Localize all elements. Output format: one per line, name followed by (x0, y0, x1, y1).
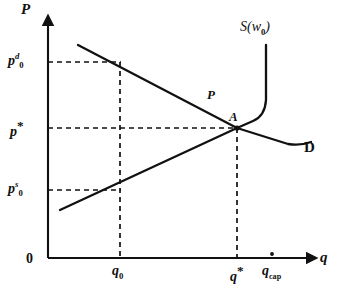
price-base-p0d: p (8, 53, 15, 68)
quantity-label-q0: q0 (112, 264, 123, 280)
price-base-pstar: p (10, 124, 17, 139)
quantity-label-qcap: qcap (262, 264, 281, 281)
price-label-pstar: p* (10, 119, 24, 139)
price-base-p0s: p (8, 181, 15, 196)
price-axis-label: P (21, 2, 30, 17)
quantity-axis-label: q (320, 250, 328, 265)
supply-demand-figure: P q 0 pd0 p* ps0 q0 q* qcap S(w0) D P A (0, 0, 340, 288)
supply-label-head: S(w (240, 19, 261, 34)
demand-curve (78, 45, 311, 145)
equilibrium-point-label: A (229, 110, 238, 123)
qty-sub-qcap: cap (269, 272, 281, 281)
demand-curve-path (78, 45, 311, 145)
price-star-pstar: * (17, 118, 24, 133)
price-sub-p0s: 0 (18, 188, 22, 198)
qty-base-qcap: q (262, 263, 269, 278)
origin-label: 0 (26, 252, 33, 266)
qty-base-qstar: q (230, 269, 237, 284)
qcap-point-marker (270, 252, 274, 256)
supply-label-tail: ) (265, 19, 270, 34)
price-label-p0d: pd0 (8, 52, 24, 70)
qty-sub-q0: 0 (119, 271, 123, 281)
region-label-p: P (207, 88, 215, 101)
price-sub-p0d: 0 (19, 60, 23, 70)
marker-group (234, 125, 274, 256)
supply-curve-label: S(w0) (240, 20, 270, 36)
axis-group (48, 24, 308, 258)
qty-base-q0: q (112, 263, 119, 278)
quantity-label-qstar: q* (230, 264, 244, 284)
diagram-canvas (0, 0, 340, 288)
qty-star-qstar: * (237, 263, 244, 278)
equilibrium-point-marker (234, 125, 239, 130)
price-label-p0s: ps0 (8, 180, 23, 198)
demand-curve-label: D (304, 140, 315, 155)
